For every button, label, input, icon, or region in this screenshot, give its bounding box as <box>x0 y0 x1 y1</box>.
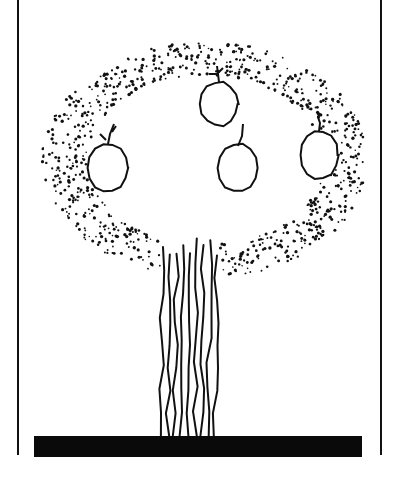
apple-4 <box>301 113 339 179</box>
apple-2 <box>200 66 239 126</box>
tree-illustration <box>0 0 401 479</box>
apples <box>88 66 339 191</box>
ground-bar <box>34 436 362 457</box>
tree-drawing <box>0 0 401 479</box>
apple-3 <box>218 124 258 191</box>
apple-1 <box>88 124 129 191</box>
trunk-strokes <box>159 238 218 436</box>
